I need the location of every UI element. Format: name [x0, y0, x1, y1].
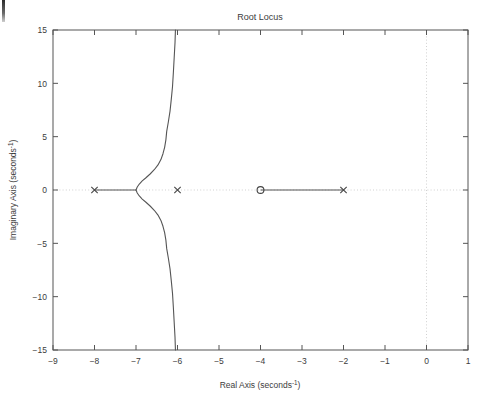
y-tick-label: −15 — [33, 345, 48, 355]
root-locus-figure: Root Locus −9−8−7−6−5−4−3−2−101 −15−10−5… — [0, 0, 487, 400]
x-tick-label: −7 — [131, 356, 141, 366]
x-tick-label: −9 — [48, 356, 58, 366]
scan-edge-artifact — [2, 0, 5, 22]
y-tick-label: 5 — [42, 132, 47, 142]
root-locus-chart: Root Locus −9−8−7−6−5−4−3−2−101 −15−10−5… — [0, 0, 487, 400]
locus-branch-upper-branch — [136, 30, 175, 190]
y-tick-label: 0 — [42, 185, 47, 195]
y-tick-label: 15 — [38, 25, 48, 35]
y-axis-label: Imaginary Axis (seconds-1) — [7, 140, 18, 241]
y-axis-tick-labels: −15−10−5051015 — [33, 25, 48, 355]
x-tick-label: −6 — [173, 356, 183, 366]
x-tick-label: −1 — [380, 356, 390, 366]
y-tick-label: −5 — [37, 239, 47, 249]
x-axis-tick-labels: −9−8−7−6−5−4−3−2−101 — [48, 356, 470, 366]
x-tick-label: 1 — [466, 356, 471, 366]
x-tick-label: −2 — [339, 356, 349, 366]
x-tick-label: 0 — [424, 356, 429, 366]
y-tick-label: −10 — [33, 292, 48, 302]
x-tick-label: −4 — [256, 356, 266, 366]
x-tick-label: −5 — [214, 356, 224, 366]
y-tick-label: 10 — [38, 79, 48, 89]
chart-title: Root Locus — [237, 12, 283, 22]
x-tick-label: −8 — [90, 356, 100, 366]
locus-branch-lower-branch — [136, 190, 175, 350]
x-tick-label: −3 — [297, 356, 307, 366]
x-axis-label: Real Axis (seconds-1) — [220, 379, 301, 390]
